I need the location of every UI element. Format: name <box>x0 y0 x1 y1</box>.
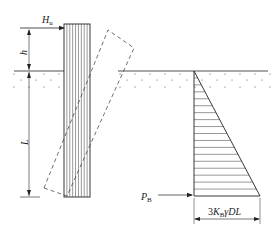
height-arrow-bottom <box>27 64 31 70</box>
embedment-label: L <box>19 139 30 146</box>
embedment-arrow-bottom <box>27 190 31 196</box>
embedment-arrow-top <box>27 72 31 78</box>
resultant-label: PB <box>140 191 152 204</box>
pressure-max-label: 3KBγDL <box>208 206 242 219</box>
soil-dot <box>164 86 165 87</box>
soil-dot <box>209 86 210 87</box>
soil-dot <box>134 73 135 74</box>
soil-dot <box>224 86 225 87</box>
pile-diagram: Hu h L PB 3KBγDL <box>0 0 279 234</box>
soil-dot <box>43 86 44 87</box>
pile <box>64 24 90 197</box>
soil-dot <box>156 79 157 80</box>
soil-dot <box>254 73 255 74</box>
soil-dot <box>194 86 195 87</box>
soil-dot <box>43 73 44 74</box>
height-label: h <box>18 50 29 55</box>
soil-dot <box>149 73 150 74</box>
soil-dot <box>269 73 270 74</box>
soil-dot <box>119 73 120 74</box>
load-label: Hu <box>41 14 53 27</box>
soil-dot <box>171 79 172 80</box>
soil-dot <box>239 86 240 87</box>
soil-dot <box>216 79 217 80</box>
soil-dot <box>164 73 165 74</box>
soil-dot <box>254 86 255 87</box>
soil-dot <box>58 73 59 74</box>
soil-dot <box>134 86 135 87</box>
pressure-arrow-right <box>254 217 260 221</box>
soil-dot <box>13 73 14 74</box>
soil-dot <box>149 86 150 87</box>
soil-dot <box>179 73 180 74</box>
pressure-arrow-left <box>194 217 200 221</box>
soil-dot <box>50 79 51 80</box>
soil-dot <box>261 79 262 80</box>
soil-dot <box>224 73 225 74</box>
soil-dot <box>13 86 14 87</box>
soil-dot <box>269 86 270 87</box>
height-arrow-top <box>27 29 31 35</box>
soil-dot <box>186 79 187 80</box>
soil-dots <box>13 73 270 87</box>
soil-dot <box>58 86 59 87</box>
soil-dot <box>119 86 120 87</box>
pressure-hatch <box>194 78 256 189</box>
soil-dot <box>209 73 210 74</box>
soil-dot <box>179 86 180 87</box>
soil-dot <box>20 79 21 80</box>
soil-dot <box>231 79 232 80</box>
soil-dot <box>141 79 142 80</box>
soil-dot <box>126 79 127 80</box>
soil-dot <box>201 79 202 80</box>
pressure-diagram <box>194 71 260 196</box>
soil-dot <box>239 73 240 74</box>
soil-dot <box>246 79 247 80</box>
soil-dot <box>35 79 36 80</box>
